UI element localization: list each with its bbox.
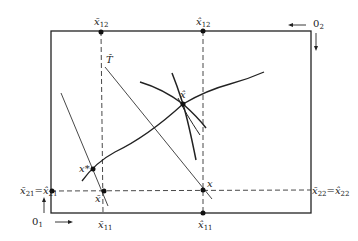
edgeworth-box-diagram: x̄12 x̂12 02 T̂ x̂ x* x̄ x x̄21=x̂21 x̄2… bbox=[0, 0, 358, 241]
point-x-hat bbox=[181, 102, 186, 107]
arrowhead-o2-left bbox=[288, 23, 293, 27]
budget-line-x-bar bbox=[61, 93, 108, 206]
label-x-bar-11: x̄11 bbox=[98, 219, 113, 232]
indifference-curve-2 bbox=[172, 73, 196, 160]
point-x-hat-11 bbox=[201, 211, 206, 216]
point-x-star bbox=[91, 167, 96, 172]
label-t-hat: T̂ bbox=[106, 54, 114, 65]
label-x-bar: x̄ bbox=[95, 193, 101, 204]
label-x-bar-12: x̄12 bbox=[94, 16, 109, 29]
dashed-line-x2 bbox=[51, 190, 311, 191]
arrowhead-o1-up bbox=[42, 197, 46, 202]
contract-curve bbox=[82, 72, 264, 181]
dashed-line-x-bar-1 bbox=[101, 31, 103, 213]
label-x-star: x* bbox=[79, 163, 90, 174]
arrowhead-o2-down bbox=[314, 46, 318, 51]
label-x-hat-11: x̂11 bbox=[198, 219, 213, 232]
label-x: x bbox=[207, 178, 213, 189]
t-hat-line bbox=[105, 67, 212, 199]
label-origin-2: 02 bbox=[313, 18, 324, 31]
point-x-bar-12 bbox=[99, 30, 104, 35]
label-origin-1: 01 bbox=[32, 216, 43, 229]
point-x-hat-12 bbox=[201, 29, 206, 34]
arrowhead-o1-right bbox=[68, 220, 73, 224]
point-x bbox=[201, 188, 206, 193]
label-x21: x̄21=x̂21 bbox=[20, 185, 58, 198]
label-x-hat: x̂ bbox=[180, 89, 186, 100]
point-x-bar bbox=[102, 189, 107, 194]
label-x22: x̄22=x̂22 bbox=[312, 185, 350, 198]
indifference-curve-1 bbox=[140, 82, 206, 128]
edgeworth-box-frame bbox=[51, 31, 311, 213]
label-x-hat-12: x̂12 bbox=[196, 16, 211, 29]
